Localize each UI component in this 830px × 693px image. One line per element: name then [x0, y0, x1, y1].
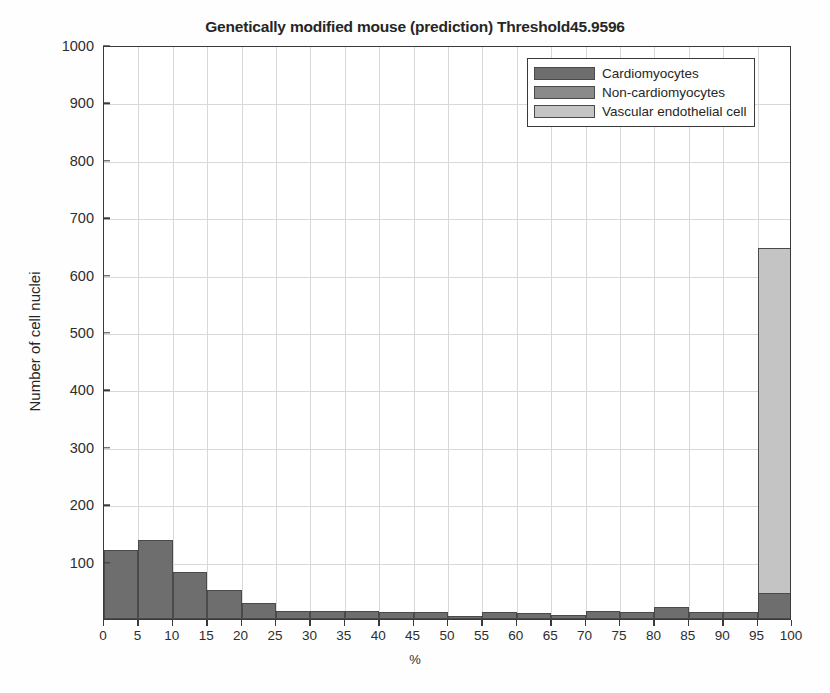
bar-stack [758, 248, 791, 619]
bar-segment [242, 603, 276, 619]
y-tick-mark [103, 103, 110, 104]
x-tick-label: 100 [771, 628, 811, 643]
y-tick-mark [103, 45, 110, 46]
chart-figure: Genetically modified mouse (prediction) … [0, 0, 830, 693]
x-tick-mark [344, 620, 345, 626]
bars-layer [104, 47, 790, 619]
y-axis-title: Number of cell nuclei [26, 212, 43, 472]
y-tick-label: 1000 [36, 38, 94, 54]
y-tick-label: 800 [36, 153, 94, 169]
x-tick-mark [241, 620, 242, 626]
x-tick-mark [275, 620, 276, 626]
x-tick-mark [653, 620, 654, 626]
bar-segment [207, 590, 241, 619]
x-axis-title: % [0, 652, 830, 667]
bar-segment [758, 593, 791, 619]
y-tick-mark [103, 160, 110, 161]
x-tick-mark [378, 620, 379, 626]
y-tick-mark [103, 504, 110, 505]
legend-item[interactable]: Non-cardiomyocytes [534, 83, 747, 102]
bar-stack [242, 603, 276, 619]
bar-segment [551, 615, 585, 619]
y-tick-label: 600 [36, 268, 94, 284]
bar-segment [414, 612, 448, 619]
x-tick-mark [688, 620, 689, 626]
x-tick-mark [172, 620, 173, 626]
x-tick-mark [791, 620, 792, 626]
bar-stack [414, 612, 448, 619]
bar-stack [173, 572, 207, 619]
bar-segment [138, 540, 172, 619]
bar-stack [104, 550, 138, 619]
bar-segment [173, 572, 207, 619]
x-tick-mark [619, 620, 620, 626]
bar-segment [620, 612, 654, 619]
bar-stack [379, 612, 413, 619]
x-tick-mark [447, 620, 448, 626]
legend-item[interactable]: Cardiomyocytes [534, 64, 747, 83]
x-tick-mark [722, 620, 723, 626]
bar-segment [654, 607, 688, 619]
bar-stack [448, 616, 482, 619]
bar-segment [517, 613, 551, 619]
x-tick-mark [309, 620, 310, 626]
chart-legend: CardiomyocytesNon-cardiomyocytesVascular… [527, 58, 755, 127]
x-tick-mark [585, 620, 586, 626]
x-tick-mark [137, 620, 138, 626]
bar-stack [207, 590, 241, 619]
bar-stack [517, 613, 551, 619]
legend-label: Non-cardiomyocytes [602, 85, 725, 100]
bar-segment [586, 611, 620, 619]
x-tick-mark [206, 620, 207, 626]
bar-stack [689, 612, 723, 619]
bar-segment [482, 612, 516, 619]
bar-segment [104, 550, 138, 619]
bar-segment [276, 611, 310, 619]
bar-segment [689, 612, 723, 619]
chart-title: Genetically modified mouse (prediction) … [0, 18, 830, 36]
bar-segment [448, 616, 482, 619]
y-tick-label: 700 [36, 210, 94, 226]
y-tick-label: 200 [36, 497, 94, 513]
bar-stack [551, 615, 585, 619]
bar-stack [620, 612, 654, 619]
y-tick-label: 400 [36, 382, 94, 398]
y-tick-label: 300 [36, 440, 94, 456]
bar-stack [482, 612, 516, 619]
bar-stack [310, 611, 344, 619]
y-tick-mark [103, 447, 110, 448]
y-tick-mark [103, 390, 110, 391]
legend-item[interactable]: Vascular endothelial cell [534, 102, 747, 121]
x-tick-mark [481, 620, 482, 626]
y-tick-mark [103, 562, 110, 563]
y-tick-label: 500 [36, 325, 94, 341]
legend-swatch [534, 86, 595, 99]
x-tick-mark [550, 620, 551, 626]
bar-stack [586, 611, 620, 619]
legend-swatch [534, 105, 595, 118]
y-tick-label: 100 [36, 555, 94, 571]
y-tick-mark [103, 275, 110, 276]
x-tick-mark [103, 620, 104, 626]
bar-stack [276, 611, 310, 619]
bar-stack [138, 540, 172, 619]
plot-area [103, 46, 791, 620]
legend-label: Cardiomyocytes [602, 66, 699, 81]
x-tick-mark [516, 620, 517, 626]
bar-segment [723, 612, 757, 619]
x-tick-mark [757, 620, 758, 626]
legend-label: Vascular endothelial cell [602, 104, 747, 119]
bar-stack [654, 607, 688, 619]
bar-segment [379, 612, 413, 619]
y-tick-label: 900 [36, 95, 94, 111]
bar-stack [723, 612, 757, 619]
bar-segment [758, 248, 791, 594]
bar-stack [345, 611, 379, 619]
bar-segment [345, 611, 379, 619]
bar-segment [310, 611, 344, 619]
x-tick-mark [413, 620, 414, 626]
legend-swatch [534, 67, 595, 80]
y-tick-mark [103, 217, 110, 218]
y-tick-mark [103, 332, 110, 333]
